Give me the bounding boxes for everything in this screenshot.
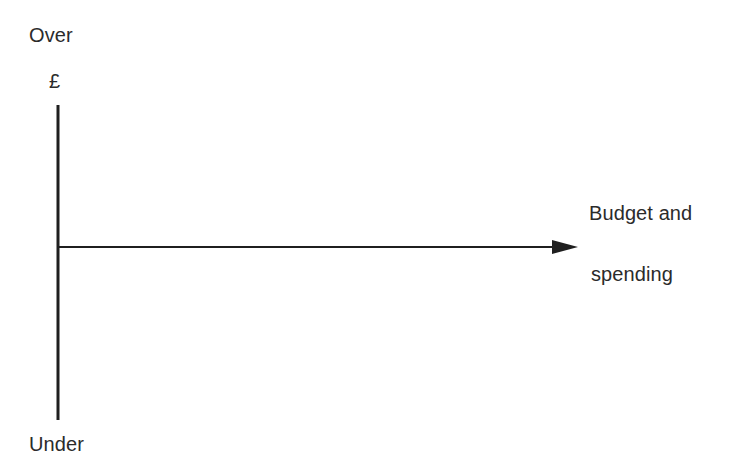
diagram-canvas: Over £ Under Budget and spending (0, 0, 734, 474)
x-axis-label-line2: spending (591, 263, 673, 285)
y-axis-bottom-label: Under (29, 433, 84, 455)
y-axis-unit-label: £ (49, 70, 60, 92)
right-arrow-icon (552, 240, 578, 254)
x-axis-label-line1: Budget and (589, 202, 692, 224)
y-axis-top-label: Over (29, 24, 73, 46)
axis-diagram-svg (0, 0, 734, 474)
